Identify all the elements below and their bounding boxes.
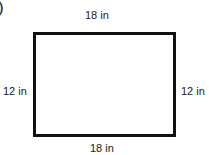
right-side-label: 12 in	[181, 85, 205, 97]
top-side-label: 18 in	[85, 9, 109, 21]
rectangle-shape	[33, 32, 176, 137]
left-side-label: 12 in	[3, 85, 27, 97]
bottom-side-label: 18 in	[90, 142, 114, 154]
part-marker-paren: )	[0, 0, 4, 18]
